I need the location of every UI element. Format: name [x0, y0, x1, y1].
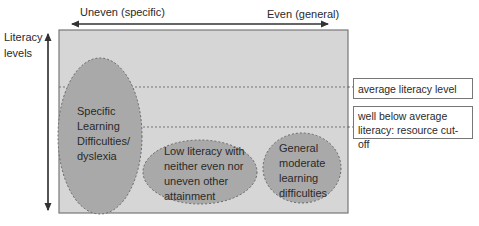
resource-cutoff-box: well below average literacy: resource cu… [353, 106, 473, 139]
literacy-levels-line1: Literacy [4, 29, 43, 45]
even-general-label: Even (general) [267, 8, 339, 21]
uneven-specific-label: Uneven (specific) [80, 6, 165, 19]
average-literacy-level-box: average literacy level [353, 78, 473, 99]
specific-learning-difficulties-text: Specific Learning Difficulties/ dyslexia [77, 104, 130, 164]
low-literacy-text: Low literacy with neither even nor uneve… [164, 144, 245, 204]
literacy-levels-label: Literacy levels [4, 29, 43, 61]
literacy-levels-line2: levels [4, 45, 43, 61]
resource-cutoff-label-line1: well below average [358, 109, 468, 123]
average-literacy-level-label: average literacy level [358, 83, 457, 95]
resource-cutoff-label-line2: literacy: resource cut-off [358, 123, 468, 151]
general-moderate-learning-difficulties-text: General moderate learning difficulties [279, 141, 327, 201]
